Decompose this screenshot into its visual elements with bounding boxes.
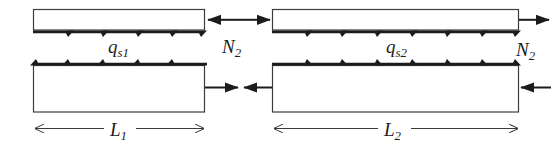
shear-flow-diagram: qs1 N2 qs2 N2 L1 L2	[0, 0, 553, 149]
bottom-left-bar-group	[30, 59, 238, 112]
bottom-right-bar-outline	[273, 66, 519, 113]
qs1-base: q	[108, 36, 118, 57]
N2-right-subscript: 2	[529, 48, 535, 63]
L2-base: L	[384, 119, 395, 140]
top-left-bar-outline	[34, 10, 205, 31]
axial-force-label-N2-right: N2	[516, 40, 535, 63]
shear-flow-label-qs1: qs1	[108, 37, 129, 60]
bottom-right-bar-group	[244, 59, 551, 112]
bottom-left-bar-outline	[34, 66, 205, 113]
L1-subscript: 1	[121, 128, 127, 143]
length-label-L2: L2	[384, 120, 401, 143]
N2-right-base: N	[516, 39, 529, 60]
diagram-canvas	[0, 0, 553, 149]
N2-mid-subscript: 2	[235, 45, 241, 60]
top-right-bar-outline	[273, 10, 519, 31]
top-right-bar-group	[240, 10, 549, 38]
qs2-base: q	[386, 36, 396, 57]
L2-subscript: 2	[395, 128, 401, 143]
top-left-bar-group	[33, 10, 240, 38]
shear-flow-label-qs2: qs2	[386, 37, 407, 60]
L1-base: L	[110, 119, 121, 140]
qs1-subscript: s1	[118, 45, 129, 60]
qs2-subscript: s2	[396, 45, 407, 60]
N2-mid-base: N	[222, 36, 235, 57]
length-label-L1: L1	[110, 120, 127, 143]
axial-force-label-N2-middle: N2	[222, 37, 241, 60]
